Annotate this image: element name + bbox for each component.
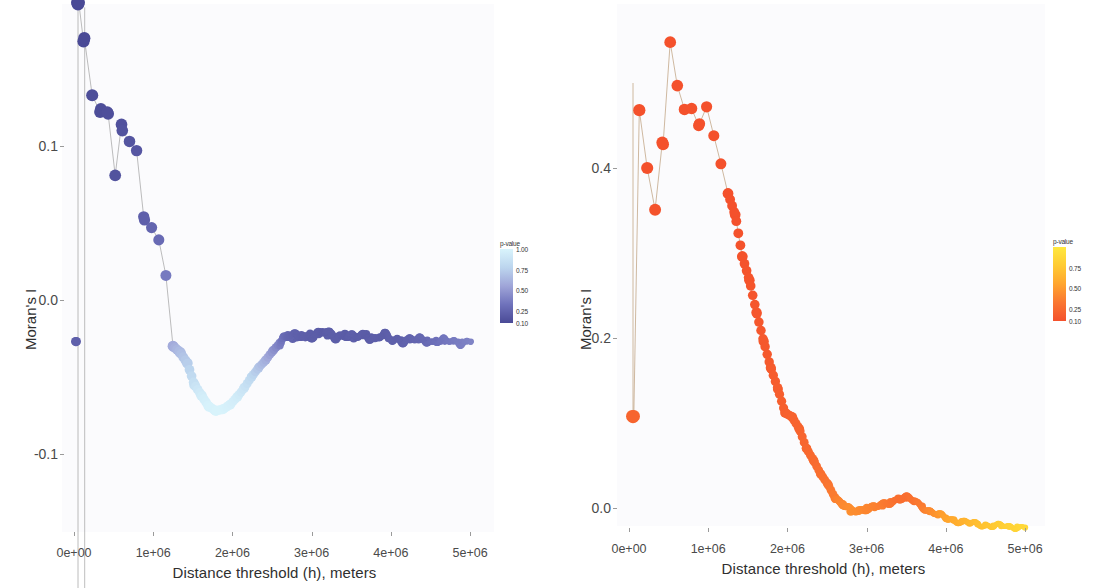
left-legend-label: 0.10 [516,320,528,327]
data-point [715,158,726,169]
data-point-dense [750,300,760,310]
left-x-axis-title: Distance threshold (h), meters [0,564,549,581]
right-y-tick-mark [613,168,617,169]
left-y-tick-label: 0.0 [18,292,58,308]
right-legend-label: 0.25 [1069,305,1081,312]
left-x-tick-mark [391,532,392,536]
left-x-tick-label: 2e+06 [215,546,250,560]
data-point [708,130,719,141]
left-legend: p-value 1.000.750.500.250.10 [500,240,520,323]
right-legend-title: p-value [1053,238,1073,245]
left-y-tick-mark [60,146,64,147]
right-legend-label: 0.50 [1069,285,1081,292]
right-x-tick-label: 0e+00 [611,542,646,556]
right-x-tick-mark [708,528,709,532]
data-point-dense [752,309,762,319]
data-point [628,410,640,422]
right-x-tick-mark [787,528,788,532]
data-point [160,270,171,281]
left-legend-label: 1.00 [516,246,528,253]
data-point-dense [468,340,473,345]
right-x-tick-mark [629,528,630,532]
left-legend-colorbar [500,249,513,323]
data-point-dense [729,207,739,217]
right-x-tick-mark [1025,528,1026,532]
left-x-tick-label: 0e+00 [56,546,91,560]
right-legend-bar-wrap: 0.750.500.250.10 [1053,247,1073,321]
left-y-tick-label: 0.1 [18,138,58,154]
data-point [146,222,157,233]
right-scatter-plot [549,0,1098,588]
right-x-tick-label: 4e+06 [928,542,963,556]
right-legend-colorbar [1053,247,1066,321]
right-legend-label: 0.10 [1069,318,1081,325]
right-connector-line [632,42,1025,527]
left-chart-panel: Moran's I 0.10.0-0.1 0e+001e+062e+063e+0… [0,0,549,588]
data-point [633,104,645,116]
left-scatter-plot [0,0,549,588]
data-point [701,101,712,112]
left-y-tick-mark [60,454,64,455]
right-x-tick-label: 3e+06 [849,542,884,556]
data-point-dense [748,290,758,300]
data-point-dense [746,281,756,291]
data-point-extra [72,337,81,346]
right-x-axis-title: Distance threshold (h), meters [549,560,1098,577]
right-legend-label: 0.75 [1069,264,1081,271]
data-point [124,136,136,148]
left-legend-label: 0.50 [516,287,528,294]
left-x-tick-mark [74,532,75,536]
data-point-dense [736,240,746,250]
data-point-dense [744,273,754,283]
left-x-tick-label: 5e+06 [453,546,488,560]
right-x-tick-mark [867,528,868,532]
right-legend: p-value 0.750.500.250.10 [1053,238,1073,321]
data-point [694,118,705,129]
right-y-tick-label: 0.0 [571,500,611,516]
data-point [649,204,661,216]
data-point [641,162,653,174]
data-point-dense [754,317,764,327]
left-x-tick-mark [470,532,471,536]
right-x-tick-label: 1e+06 [691,542,726,556]
right-y-tick-label: 0.2 [571,330,611,346]
left-x-tick-mark [312,532,313,536]
data-point-dense [758,334,768,344]
left-x-tick-mark [232,532,233,536]
data-point [78,32,90,44]
right-y-tick-label: 0.4 [571,160,611,176]
data-point [664,36,676,48]
right-x-tick-label: 5e+06 [1008,542,1043,556]
data-point [131,145,142,156]
data-point [671,80,683,92]
data-point [657,138,669,150]
right-x-tick-mark [946,528,947,532]
left-x-tick-label: 3e+06 [294,546,329,560]
left-x-tick-label: 1e+06 [136,546,171,560]
left-y-tick-mark [60,300,64,301]
data-point [116,125,128,137]
left-legend-bar-wrap: 1.000.750.500.250.10 [500,249,520,323]
data-point [86,89,98,101]
data-point-dense [731,216,741,226]
data-point-dense [756,326,766,336]
data-point [153,234,164,245]
data-point [102,108,114,120]
data-point-dense [733,228,743,238]
left-legend-label: 0.25 [516,307,528,314]
left-y-tick-label: -0.1 [18,446,58,462]
left-legend-label: 0.75 [516,266,528,273]
right-chart-panel: Moran's I 0.40.20.0 0e+001e+062e+063e+06… [549,0,1098,588]
data-point [109,169,121,181]
left-x-tick-mark [153,532,154,536]
data-point [686,103,697,114]
right-y-tick-mark [613,338,617,339]
right-y-tick-mark [613,508,617,509]
right-x-tick-label: 2e+06 [770,542,805,556]
left-x-tick-label: 4e+06 [373,546,408,560]
